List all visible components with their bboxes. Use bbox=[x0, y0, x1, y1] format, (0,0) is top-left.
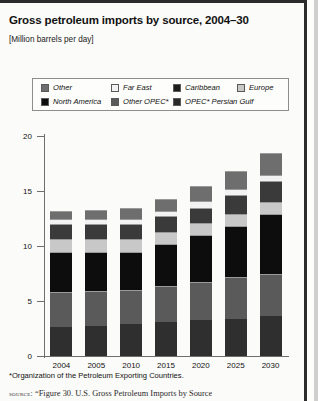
bar-segment bbox=[260, 214, 282, 273]
legend-opec-persian-gulf-swatch-icon bbox=[173, 98, 181, 106]
page-title: Gross petroleum imports by source, 2004–… bbox=[9, 14, 249, 26]
bar-segment bbox=[50, 327, 72, 356]
bar-segment bbox=[85, 326, 107, 356]
legend-other-opec-swatch-icon bbox=[111, 98, 119, 106]
bar-segment bbox=[190, 282, 212, 319]
figure-page: Gross petroleum imports by source, 2004–… bbox=[0, 0, 318, 401]
bar-segment bbox=[260, 274, 282, 317]
bar-2005 bbox=[85, 136, 107, 356]
bar-segment bbox=[120, 252, 142, 291]
bar-segment bbox=[155, 322, 177, 356]
chart-legend: OtherFar EastCaribbeanEurope North Ameri… bbox=[32, 78, 289, 111]
bar-segment bbox=[225, 319, 247, 356]
legend-caribbean-label: Caribbean bbox=[185, 84, 220, 92]
y-axis-label-0: 0 bbox=[0, 352, 32, 361]
legend-caribbean: Caribbean bbox=[173, 81, 220, 95]
bar-segment bbox=[50, 224, 72, 239]
plot-area bbox=[44, 136, 288, 356]
bar-segment bbox=[190, 201, 212, 208]
bar-segment bbox=[85, 291, 107, 326]
y-axis-label-20: 20 bbox=[0, 132, 32, 141]
page-right-edge bbox=[304, 0, 307, 401]
bar-segment bbox=[225, 189, 247, 196]
bar-segment bbox=[190, 223, 212, 235]
legend-opec-persian-gulf: OPEC* Persian Gulf bbox=[173, 95, 253, 109]
bar-segment bbox=[190, 208, 212, 223]
y-axis-label-15: 15 bbox=[0, 187, 32, 196]
legend-other-swatch-icon bbox=[41, 84, 49, 92]
source-label: source: bbox=[9, 389, 33, 398]
x-axis-line bbox=[44, 356, 289, 357]
bar-segment bbox=[225, 226, 247, 277]
bar-2020 bbox=[190, 136, 212, 356]
y-axis-label-5: 5 bbox=[0, 297, 32, 306]
bar-segment bbox=[50, 252, 72, 293]
bar-segment bbox=[120, 239, 142, 251]
legend-other-opec: Other OPEC* bbox=[111, 95, 169, 109]
legend-other-label: Other bbox=[53, 84, 72, 92]
legend-far-east-label: Far East bbox=[123, 84, 152, 92]
bar-segment bbox=[155, 216, 177, 231]
legend-europe: Europe bbox=[237, 81, 274, 95]
bar-segment bbox=[260, 153, 282, 175]
legend-north-america-swatch-icon bbox=[41, 98, 49, 106]
bar-2010 bbox=[120, 136, 142, 356]
bar-2030 bbox=[260, 136, 282, 356]
bar-2004 bbox=[50, 136, 72, 356]
page-top-edge bbox=[0, 0, 306, 3]
legend-europe-swatch-icon bbox=[237, 84, 245, 92]
bar-segment bbox=[225, 277, 247, 319]
y-axis-label-10: 10 bbox=[0, 242, 32, 251]
legend-north-america-label: North America bbox=[53, 98, 101, 106]
legend-row-2: North AmericaOther OPEC*OPEC* Persian Gu… bbox=[33, 95, 288, 109]
bar-segment bbox=[85, 239, 107, 251]
y-axis-tick-10 bbox=[37, 246, 44, 247]
bar-segment bbox=[155, 232, 177, 244]
legend-caribbean-swatch-icon bbox=[173, 84, 181, 92]
legend-north-america: North America bbox=[41, 95, 101, 109]
bar-segment bbox=[85, 224, 107, 239]
bar-segment bbox=[260, 181, 282, 202]
legend-opec-persian-gulf-label: OPEC* Persian Gulf bbox=[185, 98, 253, 106]
bar-segment bbox=[85, 252, 107, 292]
bar-segment bbox=[190, 186, 212, 201]
bar-segment bbox=[155, 244, 177, 286]
chart-units-subtitle: [Million barrels per day] bbox=[9, 35, 94, 44]
y-axis-tick-0 bbox=[37, 356, 44, 357]
bar-segment bbox=[260, 316, 282, 356]
page-right-margin bbox=[314, 0, 318, 401]
bar-segment bbox=[50, 211, 72, 219]
bar-segment bbox=[190, 235, 212, 282]
legend-far-east: Far East bbox=[111, 81, 152, 95]
legend-other-opec-label: Other OPEC* bbox=[123, 98, 169, 106]
bar-segment bbox=[225, 195, 247, 214]
bar-segment bbox=[225, 214, 247, 226]
bar-2015 bbox=[155, 136, 177, 356]
y-axis-tick-5 bbox=[37, 301, 44, 302]
bar-segment bbox=[50, 239, 72, 251]
bar-segment bbox=[260, 175, 282, 182]
legend-far-east-swatch-icon bbox=[111, 84, 119, 92]
bar-segment bbox=[190, 320, 212, 356]
bar-segment bbox=[85, 210, 107, 219]
bar-segment bbox=[225, 171, 247, 189]
bar-segment bbox=[50, 292, 72, 327]
bar-segment bbox=[120, 224, 142, 239]
source-text: “Figure 30. U.S. Gross Petroleum Imports… bbox=[35, 389, 212, 398]
bar-2025 bbox=[225, 136, 247, 356]
legend-other: Other bbox=[41, 81, 72, 95]
legend-row-1: OtherFar EastCaribbeanEurope bbox=[33, 81, 288, 95]
bar-segment bbox=[120, 208, 142, 219]
source-line: source: “Figure 30. U.S. Gross Petroleum… bbox=[9, 389, 212, 400]
bar-segment bbox=[120, 324, 142, 356]
legend-europe-label: Europe bbox=[249, 84, 274, 92]
bar-segment bbox=[120, 290, 142, 324]
bar-segment bbox=[155, 199, 177, 211]
y-axis-tick-15 bbox=[37, 191, 44, 192]
footnote-opec: *Organization of the Petroleum Exporting… bbox=[9, 371, 184, 380]
bar-segment bbox=[260, 202, 282, 214]
bar-segment bbox=[155, 286, 177, 322]
x-axis-label-2030: 2030 bbox=[251, 361, 291, 370]
y-axis-tick-20 bbox=[37, 136, 44, 137]
